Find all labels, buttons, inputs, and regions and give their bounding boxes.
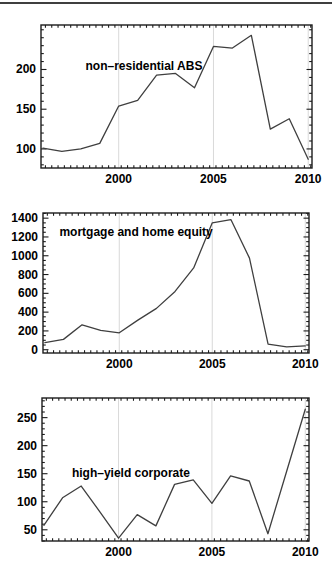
y-tick-label: 1000 <box>11 249 38 263</box>
y-tick-label: 150 <box>16 102 36 116</box>
y-tick-label: 0 <box>31 343 38 357</box>
x-tick-label: 2000 <box>106 357 133 371</box>
tick-labels: 50100150200250200020052010 <box>17 411 319 559</box>
x-tick-label: 2010 <box>292 545 319 559</box>
x-tick-label: 2000 <box>105 545 132 559</box>
ticks <box>41 25 312 168</box>
y-tick-label: 250 <box>17 411 37 425</box>
y-tick-label: 50 <box>24 523 38 537</box>
y-tick-label: 600 <box>18 286 38 300</box>
chart-1: 100150200200020052010non–residential ABS <box>16 25 322 186</box>
figure: 100150200200020052010non–residential ABS… <box>0 0 332 571</box>
series-line <box>43 35 308 159</box>
x-tick-label: 2005 <box>199 545 226 559</box>
chart-2: 0200400600800100012001400200020052010mor… <box>11 211 319 370</box>
y-tick-label: 200 <box>16 62 36 76</box>
y-tick-label: 1200 <box>11 230 38 244</box>
y-tick-label: 1400 <box>11 211 38 225</box>
y-tick-label: 200 <box>17 439 37 453</box>
y-tick-label: 150 <box>17 467 37 481</box>
tick-labels: 100150200200020052010 <box>16 62 322 185</box>
y-tick-label: 400 <box>18 305 38 319</box>
chart-3: 50100150200250200020052010high–yield cor… <box>17 398 319 559</box>
y-tick-label: 200 <box>18 324 38 338</box>
chart-frame <box>41 25 312 168</box>
chart-title: high–yield corporate <box>72 466 190 480</box>
y-tick-label: 100 <box>17 495 37 509</box>
chart-title: non–residential ABS <box>86 59 203 73</box>
chart-title: mortgage and home equity <box>59 225 213 239</box>
x-tick-label: 2010 <box>295 172 322 186</box>
charts-canvas: 100150200200020052010non–residential ABS… <box>0 0 332 571</box>
y-tick-label: 800 <box>18 268 38 282</box>
x-tick-label: 2000 <box>105 172 132 186</box>
x-tick-label: 2005 <box>199 357 226 371</box>
x-tick-label: 2005 <box>200 172 227 186</box>
y-tick-label: 100 <box>16 142 36 156</box>
x-tick-label: 2010 <box>292 357 319 371</box>
